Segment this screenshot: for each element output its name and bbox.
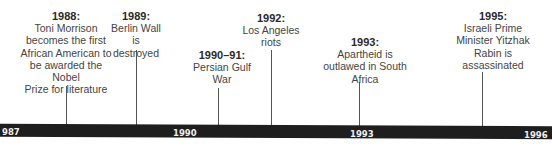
event-year: 1988:	[15, 10, 117, 22]
timeline-bar	[0, 124, 552, 139]
event-stem-1995	[482, 72, 483, 128]
event-text-line: Israeli Prime	[448, 22, 538, 34]
event-stem-1988	[66, 86, 67, 126]
event-year: 1993:	[318, 36, 412, 48]
event-text-line: riots	[241, 36, 301, 48]
event-text-line: Africa	[318, 73, 412, 85]
event-text-line: Berlin Wall is	[106, 22, 166, 46]
axis-label-1990: 1990	[173, 128, 197, 138]
event-year: 1995:	[448, 10, 538, 22]
event-year: 1992:	[241, 12, 301, 24]
event-1992: 1992: Los Angeles riots	[241, 12, 301, 49]
axis-label-1987: 987	[2, 127, 20, 137]
event-text-line: Rabin is	[448, 47, 538, 59]
event-year: 1989:	[106, 10, 166, 22]
event-text-line: Apartheid is	[318, 48, 412, 60]
event-stem-1989	[136, 50, 137, 126]
event-stem-1992	[271, 50, 272, 127]
event-text-line: Minister Yitzhak	[448, 34, 538, 46]
event-1990-91: 1990–91: Persian Gulf War	[192, 49, 252, 86]
event-text-line: War	[192, 73, 252, 85]
event-text-line: Los Angeles	[241, 24, 301, 36]
event-stem-1990-91	[218, 88, 219, 126]
event-text-line: Persian Gulf	[192, 61, 252, 73]
axis-label-1993: 1993	[350, 129, 374, 139]
event-1995: 1995: Israeli Prime Minister Yitzhak Rab…	[448, 10, 538, 71]
event-text-line: be awarded the Nobel	[15, 59, 117, 83]
event-1988: 1988: Toni Morrison becomes the first Af…	[15, 10, 117, 95]
event-text-line: outlawed in South	[318, 60, 412, 72]
event-text-line: Toni Morrison	[15, 22, 117, 34]
event-text-line: assassinated	[448, 59, 538, 71]
event-stem-1993	[359, 82, 360, 127]
event-1993: 1993: Apartheid is outlawed in South Afr…	[318, 36, 412, 85]
axis-label-1996: 1996	[524, 130, 548, 140]
event-year: 1990–91:	[192, 49, 252, 61]
event-text-line: African American to	[15, 47, 117, 59]
event-text-line: becomes the first	[15, 34, 117, 46]
